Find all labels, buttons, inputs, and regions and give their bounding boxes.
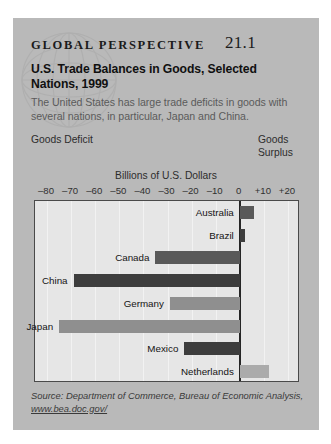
x-tick-10: +20 bbox=[279, 185, 295, 196]
x-tick-0: –80 bbox=[38, 185, 54, 196]
chart-row: Germany bbox=[35, 292, 298, 315]
chart-row: Japan bbox=[35, 315, 298, 338]
bar-label-brazil: Brazil bbox=[209, 229, 234, 242]
bar-germany bbox=[170, 297, 240, 310]
goods-deficit-label: Goods Deficit bbox=[31, 134, 93, 145]
x-axis-tick-labels: –80–70–60–50–40–30–20–100+10+20 bbox=[34, 185, 304, 198]
bar-label-canada: Canada bbox=[115, 251, 149, 264]
chart-row: Brazil bbox=[35, 224, 298, 247]
x-tick-4: –40 bbox=[134, 185, 150, 196]
x-tick-5: –30 bbox=[158, 185, 174, 196]
chart-row: Mexico bbox=[35, 338, 298, 361]
figure-box: GLOBAL PERSPECTIVE 21.1 U.S. Trade Balan… bbox=[0, 0, 331, 444]
panel-inner: GLOBAL PERSPECTIVE 21.1 U.S. Trade Balan… bbox=[13, 18, 319, 430]
bar-label-australia: Australia bbox=[196, 206, 234, 219]
chart-row: Australia bbox=[35, 201, 298, 224]
chart-row: China bbox=[35, 269, 298, 292]
chart-row: Netherlands bbox=[35, 360, 298, 383]
bar-china bbox=[74, 274, 240, 287]
bar-japan bbox=[59, 320, 240, 333]
bar-mexico bbox=[184, 342, 239, 355]
bar-label-mexico: Mexico bbox=[147, 342, 178, 355]
source-link[interactable]: www.bea.doc.gov/ bbox=[31, 403, 307, 416]
chart-plot-area: AustraliaBrazilCanadaChinaGermanyJapanMe… bbox=[34, 200, 299, 382]
x-tick-9: +10 bbox=[255, 185, 271, 196]
bar-brazil bbox=[240, 229, 245, 242]
x-axis-title: Billions of U.S. Dollars bbox=[13, 170, 319, 181]
goods-surplus-label: Goods Surplus bbox=[258, 134, 314, 159]
bar-label-china: China bbox=[42, 274, 68, 287]
kicker-title: GLOBAL PERSPECTIVE bbox=[31, 38, 205, 53]
x-tick-3: –50 bbox=[110, 185, 126, 196]
x-tick-2: –60 bbox=[86, 185, 102, 196]
panel-background: GLOBAL PERSPECTIVE 21.1 U.S. Trade Balan… bbox=[13, 18, 319, 430]
bar-label-japan: Japan bbox=[26, 320, 53, 333]
bar-canada bbox=[155, 251, 239, 264]
bar-netherlands bbox=[240, 365, 269, 378]
source-text: Source: Department of Commerce, Bureau o… bbox=[31, 390, 303, 401]
x-tick-8: 0 bbox=[236, 185, 241, 196]
x-tick-6: –20 bbox=[183, 185, 199, 196]
bar-label-netherlands: Netherlands bbox=[181, 365, 234, 378]
headline: U.S. Trade Balances in Goods, Selected N… bbox=[31, 62, 281, 91]
bar-label-germany: Germany bbox=[124, 297, 164, 310]
chart-row: Canada bbox=[35, 247, 298, 270]
x-tick-1: –70 bbox=[62, 185, 78, 196]
bar-australia bbox=[240, 206, 254, 219]
description-text: The United States has large trade defici… bbox=[31, 95, 303, 123]
x-tick-7: –10 bbox=[207, 185, 223, 196]
source-note: Source: Department of Commerce, Bureau o… bbox=[31, 390, 307, 415]
figure-number: 21.1 bbox=[225, 33, 256, 53]
